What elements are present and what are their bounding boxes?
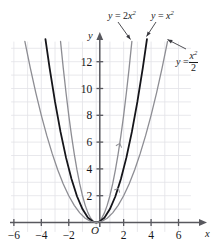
curve-label-middle-exp: 2 — [171, 9, 174, 16]
leader-arrow — [168, 40, 187, 50]
y-tick-label: 10 — [81, 83, 93, 95]
curve-label-middle-lhs: y — [151, 10, 155, 21]
x-tick-label: −6 — [8, 229, 20, 241]
curve-label-left-eq: = — [115, 10, 121, 21]
y-axis-name: y — [88, 31, 93, 42]
curve-label-right-den: 2 — [189, 63, 199, 74]
x-tick-label: 4 — [148, 229, 154, 241]
curve-label-left-lhs: y — [108, 10, 112, 21]
y-tick-label: 6 — [86, 136, 92, 148]
x-axis-name: x — [205, 229, 210, 240]
curve-label-right-num-exp: 2 — [194, 49, 197, 56]
leader-arrow — [118, 22, 131, 40]
parabola-comparison-figure: −6−4−224624681012 y = 2x2 y = x2 y =x22 … — [0, 0, 216, 251]
y-tick-label: 2 — [86, 190, 92, 202]
curve-label-y-equals-x-squared: y = x2 — [151, 10, 174, 21]
curve-label-right-lhs: y — [176, 56, 180, 67]
y-tick-label: 12 — [81, 56, 93, 68]
y-tick-label: 8 — [86, 109, 92, 121]
x-tick-label: −2 — [63, 229, 75, 241]
curve-label-left-exp: 2 — [133, 9, 136, 16]
plot-canvas: −6−4−224624681012 — [0, 0, 216, 251]
x-tick-label: −4 — [35, 229, 47, 241]
curve-label-y-equals-x-squared-over-two: y =x22 — [176, 51, 198, 74]
x-tick-label: 6 — [176, 229, 182, 241]
curve-label-right-fraction: x22 — [189, 50, 199, 73]
curve-label-y-equals-2x-squared: y = 2x2 — [108, 10, 136, 21]
origin-label: O — [91, 225, 99, 236]
leader-arrow — [147, 22, 157, 37]
grid-lines — [11, 42, 191, 232]
x-tick-label: 2 — [121, 229, 127, 241]
y-tick-label: 4 — [86, 163, 92, 175]
curve-label-middle-eq: = — [158, 10, 164, 21]
